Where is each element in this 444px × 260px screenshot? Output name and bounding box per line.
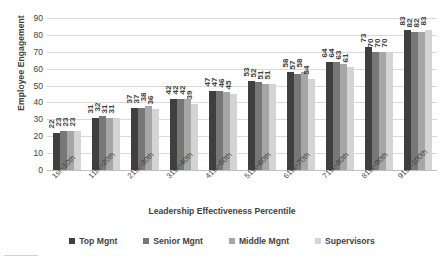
bar-group: 31323131: [86, 18, 125, 170]
bar-wrapper: 47: [209, 91, 216, 170]
y-tick-label-0: 0: [38, 165, 43, 175]
legend-label: Supervisors: [325, 236, 375, 246]
bar-value-label: 51: [264, 70, 272, 79]
legend-swatch-icon: [229, 238, 235, 244]
x-tick-cell: 71st~80th: [320, 172, 359, 204]
bar[interactable]: 73: [365, 47, 372, 170]
bar-wrapper: 73: [365, 47, 372, 170]
bar[interactable]: 39: [191, 104, 198, 170]
bar[interactable]: 70: [386, 52, 393, 170]
legend-swatch-icon: [315, 238, 321, 244]
bar-value-label: 70: [381, 38, 389, 47]
bar-value-label: 83: [420, 16, 428, 25]
bar-group: 53525151: [242, 18, 281, 170]
gridline-0: 0: [47, 170, 437, 171]
bar[interactable]: 31: [113, 118, 120, 170]
bar-wrapper: 23: [74, 131, 81, 170]
bar-group: 47474645: [203, 18, 242, 170]
bar-groups: 2223232331323131373738364242423947474645…: [47, 18, 437, 170]
bar-group: 83828283: [398, 18, 437, 170]
bar-group: 64646361: [320, 18, 359, 170]
y-tick-label-80: 80: [34, 30, 43, 40]
x-axis-title: Leadership Effectiveness Percentile: [0, 206, 444, 216]
bar-value-label: 39: [186, 91, 194, 100]
bar-value-label: 45: [225, 81, 233, 90]
bar-value-label: 61: [342, 54, 350, 63]
x-tick-cell: 21st~30th: [125, 172, 164, 204]
bar-wrapper: 70: [386, 52, 393, 170]
legend-swatch-icon: [69, 238, 75, 244]
bar[interactable]: 36: [152, 109, 159, 170]
y-tick-label-30: 30: [34, 114, 43, 124]
legend: Top MgntSenior MgntMiddle MgntSupervisor…: [0, 236, 444, 246]
x-tick-cell: 31st~40th: [164, 172, 203, 204]
bar-wrapper: 53: [248, 81, 255, 171]
bar-wrapper: 37: [131, 108, 138, 170]
bar-group: 58575854: [281, 18, 320, 170]
bar-wrapper: 64: [326, 62, 333, 170]
x-axis-tick-labels: 1st~10th11th~20th21st~30th31st~40th41st~…: [47, 172, 437, 204]
bar-wrapper: 39: [191, 104, 198, 170]
y-tick-label-50: 50: [34, 81, 43, 91]
bar[interactable]: 64: [333, 62, 340, 170]
y-tick-label-10: 10: [34, 148, 43, 158]
x-tick-cell: 11th~20th: [86, 172, 125, 204]
bar-value-label: 54: [303, 65, 311, 74]
x-tick-cell: 61st~70th: [281, 172, 320, 204]
y-axis-title: Employee Engagement: [16, 0, 26, 128]
bar-wrapper: 31: [113, 118, 120, 170]
bar[interactable]: 82: [411, 32, 418, 170]
bar-value-label: 36: [147, 96, 155, 105]
legend-label: Top Mgnt: [79, 236, 117, 246]
bar[interactable]: 58: [287, 72, 294, 170]
y-tick-label-20: 20: [34, 131, 43, 141]
legend-label: Middle Mgnt: [239, 236, 289, 246]
y-tick-label-70: 70: [34, 47, 43, 57]
bar-wrapper: 82: [411, 32, 418, 170]
bottom-rule: [4, 255, 38, 256]
bar[interactable]: 83: [404, 30, 411, 170]
x-tick-cell: 91st~100th: [398, 172, 437, 204]
bar-value-label: 31: [108, 104, 116, 113]
legend-item[interactable]: Top Mgnt: [69, 236, 117, 246]
bar-group: 42424239: [164, 18, 203, 170]
x-tick-cell: 41st~50th: [203, 172, 242, 204]
bar[interactable]: 70: [372, 52, 379, 170]
bar-chart: Employee Engagement 9080706050403020100 …: [0, 0, 444, 260]
bar-wrapper: 36: [152, 109, 159, 170]
bar-wrapper: 70: [372, 52, 379, 170]
y-tick-label-40: 40: [34, 97, 43, 107]
bar[interactable]: 42: [170, 99, 177, 170]
x-tick-cell: 81st~90th: [359, 172, 398, 204]
y-tick-label-90: 90: [34, 13, 43, 23]
x-tick-cell: 1st~10th: [47, 172, 86, 204]
bar[interactable]: 47: [209, 91, 216, 170]
bar-wrapper: 42: [170, 99, 177, 170]
bar-group: 73707070: [359, 18, 398, 170]
bar-value-label: 23: [69, 118, 77, 127]
legend-label: Senior Mgnt: [153, 236, 203, 246]
bar[interactable]: 53: [248, 81, 255, 171]
bar-wrapper: 83: [425, 30, 432, 170]
bar[interactable]: 83: [425, 30, 432, 170]
bar-group: 22232323: [47, 18, 86, 170]
bar-group: 37373836: [125, 18, 164, 170]
legend-item[interactable]: Supervisors: [315, 236, 375, 246]
legend-swatch-icon: [143, 238, 149, 244]
bar-wrapper: 58: [287, 72, 294, 170]
legend-item[interactable]: Senior Mgnt: [143, 236, 203, 246]
bar[interactable]: 23: [74, 131, 81, 170]
bar-wrapper: 64: [333, 62, 340, 170]
plot-area: 9080706050403020100 22232323313231313737…: [47, 18, 437, 170]
x-tick-cell: 51st~60th: [242, 172, 281, 204]
bar[interactable]: 64: [326, 62, 333, 170]
bar-wrapper: 83: [404, 30, 411, 170]
bar[interactable]: 37: [131, 108, 138, 170]
y-tick-label-60: 60: [34, 64, 43, 74]
legend-item[interactable]: Middle Mgnt: [229, 236, 289, 246]
